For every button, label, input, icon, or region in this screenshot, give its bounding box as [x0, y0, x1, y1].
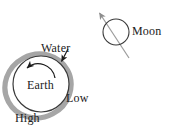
water-label: Water — [41, 42, 70, 54]
low-tide-label: Low — [66, 92, 89, 104]
tide-diagram: Water Earth Low High Moon — [0, 0, 171, 134]
high-tide-label: High — [15, 112, 40, 124]
moon-circle — [103, 19, 129, 45]
earth-label: Earth — [27, 79, 54, 91]
moon-label: Moon — [132, 25, 161, 37]
